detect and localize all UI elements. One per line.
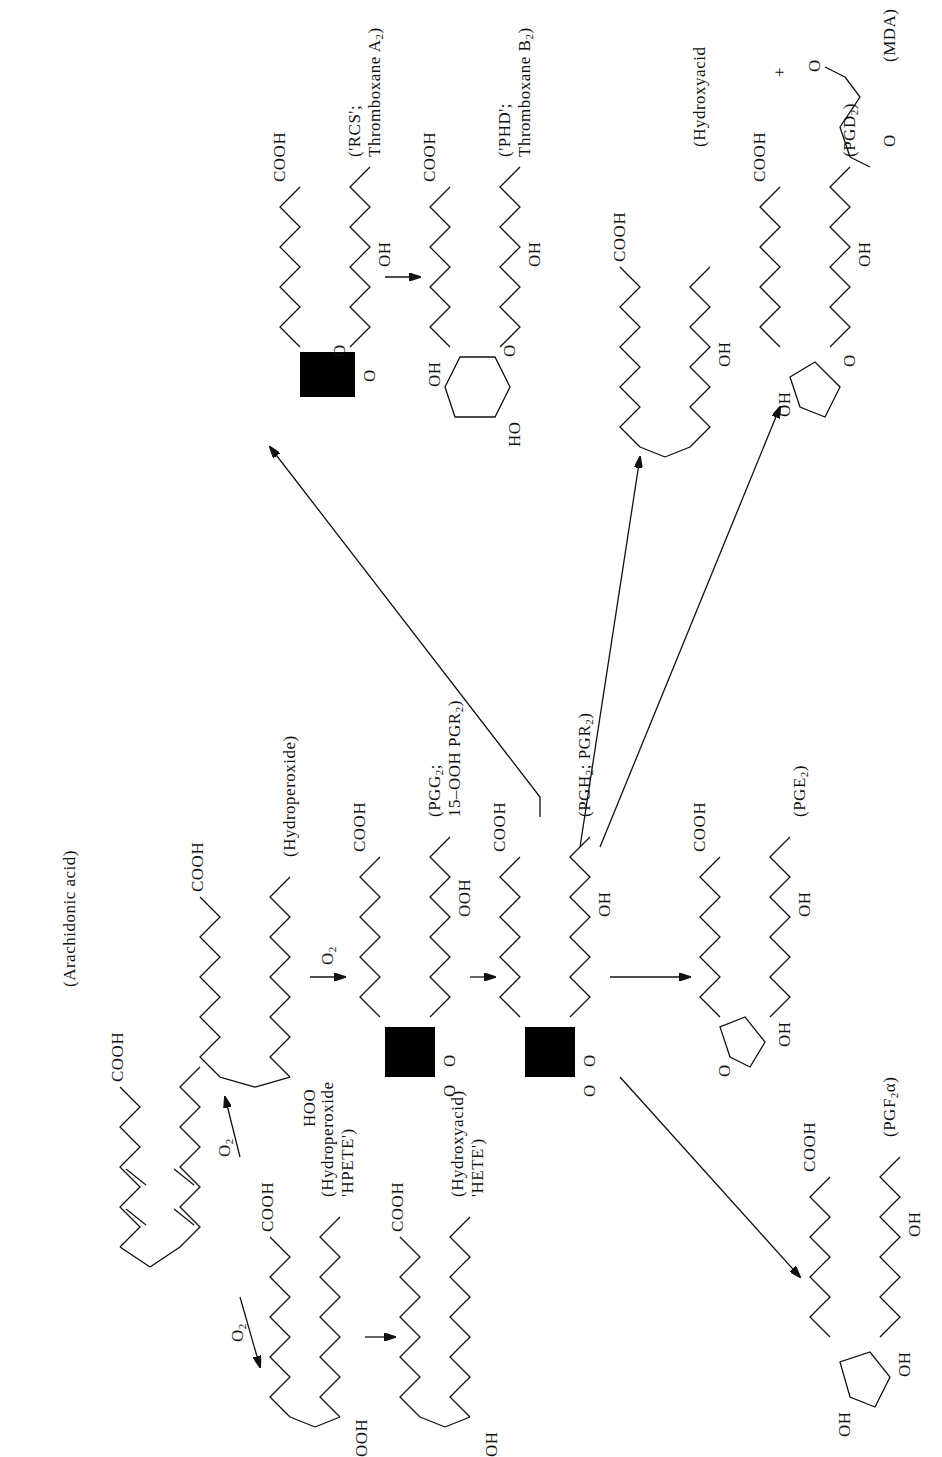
hydroxyacid-hht-structure: [620, 267, 710, 457]
pgh2-structure: [500, 837, 590, 1077]
txa2-oh: OH: [375, 241, 394, 267]
hpete-structure: [270, 1217, 340, 1427]
plus-sign: +: [770, 67, 789, 77]
hete-cooh: COOH: [388, 1182, 407, 1232]
txa2-name-2: Thromboxane A2): [365, 27, 389, 157]
o2-label-b: O2: [215, 1138, 239, 1157]
thromboxane-a2-structure: [280, 167, 370, 397]
hete-name-2: 'HETE'): [468, 1138, 487, 1197]
hpete-cooh: COOH: [258, 1182, 277, 1232]
txa2-cooh: COOH: [270, 132, 289, 182]
mda-name: (MDA): [880, 9, 899, 63]
pgg2-cooh: COOH: [350, 802, 369, 852]
pge2-oh-ring: OH: [775, 1021, 794, 1047]
txb2-oh-ring: OH: [425, 361, 444, 387]
arrow-pgh2-to-txa2: [270, 447, 540, 817]
hydroperoxide-structure: [200, 877, 290, 1087]
mda-o-2: O: [805, 59, 824, 72]
pge2-o-ring: O: [715, 1064, 734, 1077]
structures-and-arrows: [0, 0, 942, 1457]
pathway-diagram: COOH (Arachidonic acid) O2 O2 O2 COOH OO…: [0, 0, 942, 1457]
hete-name-1: (Hydroxyacid): [448, 1090, 467, 1197]
pgd2-oh-ring: OH: [775, 391, 794, 417]
pge2-cooh: COOH: [690, 802, 709, 852]
pgd2-o-ring: O: [840, 354, 859, 367]
txb2-o-ring: O: [500, 344, 519, 357]
hpete-name-2: 'HPETE'): [338, 1128, 357, 1197]
pgg2-structure: [360, 837, 450, 1077]
pgg2-ooh: OOH: [455, 879, 474, 917]
pge2-name: (PGE2): [790, 765, 814, 817]
arachidonic-acid-structure: [120, 1067, 200, 1267]
pge2-oh-chain: OH: [795, 891, 814, 917]
mda-o-1: O: [880, 134, 899, 147]
pgg2-o-1: O: [440, 1084, 459, 1097]
pgd2-oh-chain: OH: [855, 241, 874, 267]
pgf2a-structure: [810, 1157, 900, 1407]
aa-cooh: COOH: [108, 1032, 127, 1082]
hpete-name-1: (Hydroperoxide: [318, 1081, 337, 1197]
txb2-cooh: COOH: [420, 132, 439, 182]
hpete-ooh: OOH: [352, 1419, 371, 1457]
pgg2-o-2: O: [440, 1054, 459, 1067]
txa2-name-1: ('RCS';: [345, 105, 364, 157]
hht-oh: OH: [715, 341, 734, 367]
pgg2-name-2: 15–OOH PGR2): [445, 700, 469, 817]
hydroperoxide-hoo: HOO: [300, 1089, 319, 1127]
pgd2-structure: [760, 167, 850, 417]
hht-name: (Hydroxyacid: [690, 47, 709, 147]
txa2-o-1: O: [360, 369, 379, 382]
pgf2a-name: (PGF2α): [880, 1077, 904, 1137]
hydroperoxide-cooh: COOH: [188, 842, 207, 892]
pgh2-name: (PGH2; PGR2): [575, 713, 599, 817]
hete-structure: [400, 1217, 470, 1427]
txb2-name-1: ('PHD';: [495, 103, 514, 157]
hht-cooh: COOH: [610, 212, 629, 262]
pgf2a-oh-ring-2: OH: [895, 1351, 914, 1377]
pgh2-oh: OH: [595, 891, 614, 917]
o2-label-a: O2: [228, 1323, 252, 1342]
pgf2a-oh-chain: OH: [905, 1211, 924, 1237]
txb2-oh-chain: OH: [525, 241, 544, 267]
txb2-ho: HO: [505, 421, 524, 447]
pgf2a-cooh: COOH: [800, 1122, 819, 1172]
pgh2-cooh: COOH: [490, 802, 509, 852]
txb2-name-2: Thromboxane B2): [515, 27, 539, 157]
pgd2-cooh: COOH: [750, 132, 769, 182]
pgh2-o-2: O: [580, 1054, 599, 1067]
txa2-o-2: O: [330, 344, 349, 357]
pgh2-o-1: O: [580, 1084, 599, 1097]
hete-oh: OH: [482, 1431, 501, 1457]
o2-label-c: O2: [318, 946, 342, 965]
pgd2-name: (PGD2): [840, 103, 864, 157]
arrow-pgh2-to-pgf2a: [620, 1077, 800, 1277]
aa-name: (Arachidonic acid): [60, 850, 79, 987]
hydroperoxide-name: (Hydroperoxide): [280, 735, 299, 857]
arrow-pgh2-to-pgd2: [600, 407, 780, 847]
pgf2a-oh-ring-1: OH: [835, 1411, 854, 1437]
